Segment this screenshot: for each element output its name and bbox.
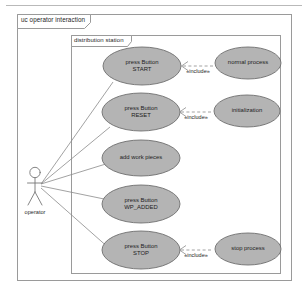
use-case-label-press-start: press Button START bbox=[125, 59, 158, 73]
outer-frame-label: uc operator interaction bbox=[21, 17, 85, 24]
include-stereotype-normal-process: «include» bbox=[186, 69, 210, 75]
use-case-label-stop-process: stop process bbox=[231, 245, 264, 252]
use-case-label-line1: initialization bbox=[232, 107, 262, 114]
inner-frame-label: distribution station bbox=[74, 37, 124, 43]
use-case-label-line1: normal process bbox=[228, 59, 268, 66]
use-case-label-normal-process: normal process bbox=[228, 59, 268, 66]
diagram-page: uc operator interaction distribution sta… bbox=[0, 0, 308, 297]
use-case-label-line2: WP_ADDED bbox=[124, 204, 157, 211]
use-case-label-line1: press Button bbox=[124, 243, 157, 250]
use-case-label-line1: press Button bbox=[124, 197, 157, 204]
include-stereotype-initialization: «include» bbox=[184, 115, 208, 121]
use-case-label-line2: STOP bbox=[124, 250, 157, 257]
use-case-label-press-reset: press Button RESET bbox=[124, 105, 157, 119]
include-stereotype-stop-process: «include» bbox=[184, 253, 208, 259]
use-case-label-press-stop: press Button STOP bbox=[124, 243, 157, 257]
use-case-label-line1: press Button bbox=[125, 59, 158, 66]
use-case-label-add-work-pieces: add work pieces bbox=[120, 154, 163, 161]
use-case-label-press-wp-added: press Button WP_ADDED bbox=[124, 197, 157, 211]
use-case-label-line1: press Button bbox=[124, 105, 157, 112]
use-case-label-line2: START bbox=[125, 66, 158, 73]
use-case-label-line1: stop process bbox=[231, 245, 264, 252]
use-case-label-initialization: initialization bbox=[232, 107, 262, 114]
use-case-label-line2: RESET bbox=[124, 112, 157, 119]
actor-label: operator bbox=[25, 209, 46, 215]
use-case-label-line1: add work pieces bbox=[120, 154, 163, 161]
